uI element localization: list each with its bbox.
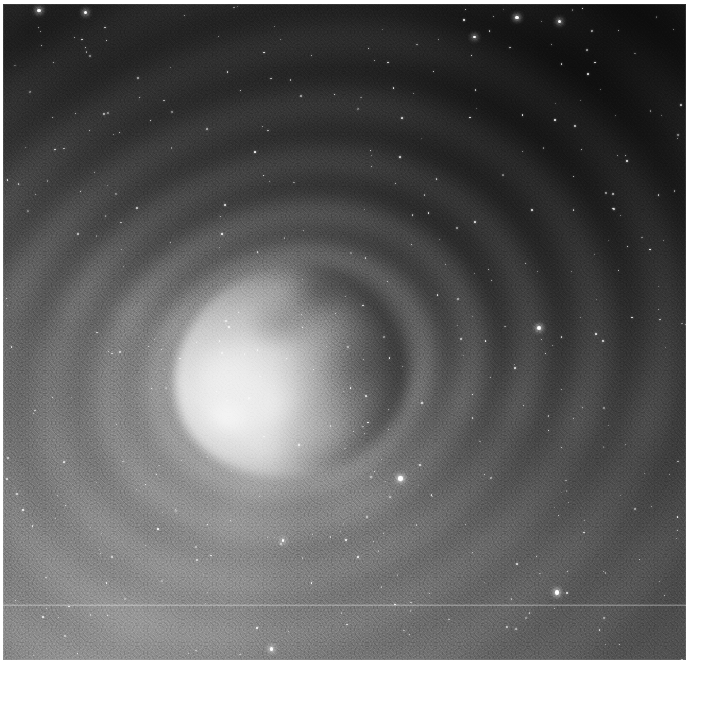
detector-scanline	[3, 605, 686, 606]
film-grain-overlay	[3, 4, 686, 660]
astronomical-image-plate	[3, 4, 686, 660]
page-background	[0, 0, 719, 703]
